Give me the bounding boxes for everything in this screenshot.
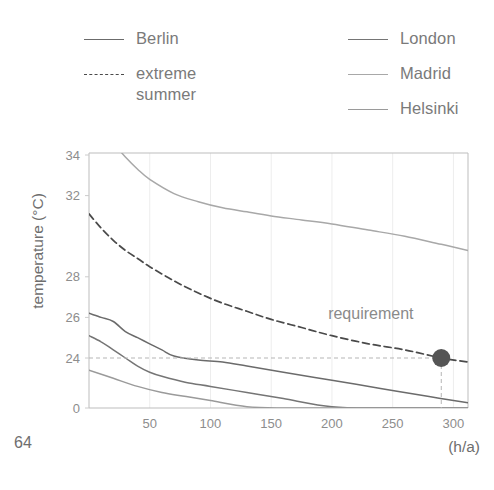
requirement-point[interactable] — [432, 349, 450, 367]
line-swatch-icon — [84, 32, 124, 48]
x-tick-label-150: 150 — [260, 416, 282, 431]
legend-column-right: LondonMadridHelsinki — [348, 28, 494, 133]
y-tick-label-24: 24 — [66, 351, 80, 366]
y-tick-label-0: 0 — [73, 401, 80, 416]
line-swatch-icon — [348, 32, 388, 48]
legend-item-label: Berlin — [136, 28, 179, 49]
legend-item-label: London — [400, 28, 456, 49]
x-tick-label-100: 100 — [200, 416, 222, 431]
annotation-requirement: requirement — [328, 305, 414, 322]
y-tick-label-28: 28 — [66, 269, 80, 284]
legend-item-label: Madrid — [400, 63, 451, 84]
chart-legend: Berlinextreme summer LondonMadridHelsink… — [0, 0, 494, 140]
dashed-line-swatch-icon — [84, 67, 124, 83]
line-swatch-icon — [348, 102, 388, 118]
reference-lines-group — [89, 358, 441, 408]
legend-item-berlin[interactable]: Berlin — [84, 28, 274, 49]
legend-item-extreme[interactable]: extreme summer — [84, 63, 274, 105]
x-axis-tick-labels: 50100150200250300 — [143, 416, 465, 431]
y-tick-label-32: 32 — [66, 188, 80, 203]
x-tick-label-250: 250 — [382, 416, 404, 431]
legend-column-left: Berlinextreme summer — [84, 28, 274, 119]
data-series-group — [89, 138, 468, 408]
y-tick-label-34: 34 — [66, 148, 80, 163]
x-tick-label-50: 50 — [143, 416, 157, 431]
chart-annotations: requirement — [328, 305, 414, 322]
legend-item-label: Helsinki — [400, 98, 459, 119]
series-line-madrid — [89, 138, 468, 250]
y-axis-tick-labels: 34322826240 — [66, 148, 89, 416]
x-axis-unit-label: (h/a) — [448, 438, 480, 456]
requirement-point-marker[interactable] — [432, 349, 450, 367]
legend-item-madrid[interactable]: Madrid — [348, 63, 494, 84]
legend-item-helsinki[interactable]: Helsinki — [348, 98, 494, 119]
temperature-line-chart: 34322826240 50100150200250300 requiremen… — [0, 138, 494, 438]
legend-item-label: extreme summer — [136, 63, 196, 105]
gridlines-group — [150, 153, 454, 408]
page-number: 64 — [14, 434, 32, 452]
legend-item-london[interactable]: London — [348, 28, 494, 49]
x-tick-label-200: 200 — [321, 416, 343, 431]
chart-region: temperature (°C) 34322826240 50100150200… — [0, 138, 494, 438]
line-swatch-icon — [348, 67, 388, 83]
series-line-helsinki — [89, 370, 468, 408]
series-line-extreme-summer — [89, 214, 468, 362]
y-tick-label-26: 26 — [66, 310, 80, 325]
x-tick-label-300: 300 — [443, 416, 465, 431]
